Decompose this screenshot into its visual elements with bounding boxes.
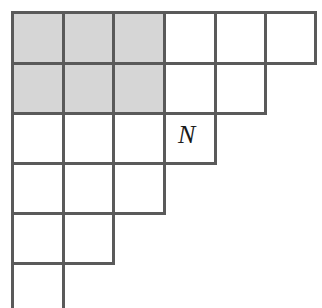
- diagram-cell-r5c1: [11, 212, 62, 262]
- diagram-cell-r2c3: [112, 62, 163, 112]
- diagram-cell-r4c3: [112, 162, 163, 212]
- grid-vline-col5: [264, 11, 267, 115]
- diagram-cell-r5c2: [62, 212, 112, 262]
- grid-vline-col4: [214, 11, 217, 165]
- diagram-cell-r6c1: [11, 262, 62, 308]
- grid-hline-row4-row5: [11, 212, 166, 215]
- diagram-cell-r3c2: [62, 112, 112, 162]
- grid-vline-col2: [112, 11, 115, 265]
- diagram-cell-r1c1: [11, 11, 62, 62]
- diagram-cell-r4c2: [62, 162, 112, 212]
- diagram-cell-r2c5: [214, 62, 264, 112]
- diagram-cell-r1c3: [112, 11, 163, 62]
- grid-vline-col6: [314, 11, 317, 65]
- grid-vline-col3: [163, 11, 166, 215]
- diagram-cell-r3c1: [11, 112, 62, 162]
- diagram-cell-r2c4: [163, 62, 214, 112]
- diagram-cell-r3c3: [112, 112, 163, 162]
- diagram-cell-r1c5: [214, 11, 264, 62]
- diagram-cell-r1c6: [264, 11, 314, 62]
- cell-label-n: N: [178, 122, 195, 148]
- diagram-cell-r1c4: [163, 11, 214, 62]
- grid-hline-row2-row3: [11, 112, 267, 115]
- diagram-cell-r2c1: [11, 62, 62, 112]
- grid-vline-col0: [11, 11, 14, 308]
- diagram-cell-r4c1: [11, 162, 62, 212]
- diagram-cell-r1c2: [62, 11, 112, 62]
- young-diagram-figure: N: [0, 0, 322, 308]
- grid-vline-col1: [62, 11, 65, 308]
- diagram-cell-r2c2: [62, 62, 112, 112]
